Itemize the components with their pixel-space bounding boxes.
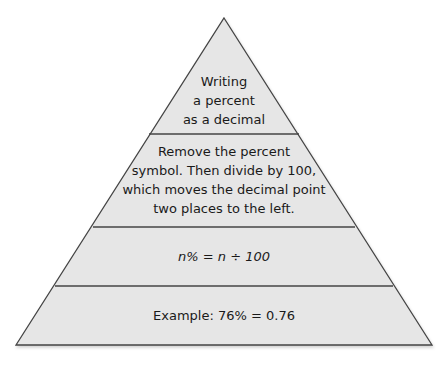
text-line: Writing <box>144 72 304 91</box>
pyramid-diagram: Writing a percent as a decimal Remove th… <box>0 0 448 368</box>
text-line: Remove the percent <box>104 142 344 161</box>
text-line: a percent <box>144 91 304 110</box>
level-3-formula: n% = n ÷ 100 <box>124 247 324 266</box>
text-line: n% = n ÷ 100 <box>124 247 324 266</box>
level-4-example: Example: 76% = 0.76 <box>104 306 344 325</box>
text-line: which moves the decimal point <box>104 180 344 199</box>
level-1-title: Writing a percent as a decimal <box>144 72 304 129</box>
text-line: symbol. Then divide by 100, <box>104 161 344 180</box>
text-line: Example: 76% = 0.76 <box>104 306 344 325</box>
text-line: two places to the left. <box>104 199 344 218</box>
text-line: as a decimal <box>144 110 304 129</box>
level-2-instruction: Remove the percent symbol. Then divide b… <box>104 142 344 218</box>
